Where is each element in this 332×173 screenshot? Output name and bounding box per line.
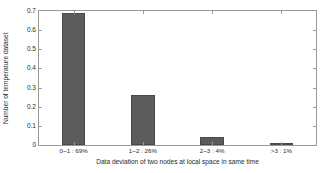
y-axis-tick-mark — [313, 107, 316, 108]
x-axis-tick-label: >3 : 1% — [271, 148, 292, 154]
x-axis-tick-mark — [143, 142, 144, 145]
y-axis-tick-mark — [39, 126, 42, 127]
y-axis-tick-label: 0.6 — [27, 27, 36, 34]
y-axis-tick-mark — [313, 68, 316, 69]
y-axis-tick-mark — [39, 68, 42, 69]
x-axis-title: Data deviation of two nodes at local spa… — [38, 159, 317, 166]
y-axis-tick-mark — [39, 49, 42, 50]
plot-area: 00.10.20.30.40.50.60.70~1 : 69%1~2 : 26%… — [38, 10, 317, 146]
x-axis-tick-label: 2~3 : 4% — [200, 148, 225, 154]
x-axis-tick-mark — [212, 11, 213, 14]
bar — [62, 13, 86, 145]
bar — [131, 95, 155, 145]
y-axis-tick-mark — [313, 126, 316, 127]
x-axis-tick-mark — [281, 142, 282, 145]
y-axis-tick-label: 0.4 — [27, 65, 36, 72]
y-axis-tick-label: 0.5 — [27, 46, 36, 53]
y-axis-tick-label: 0 — [32, 142, 36, 149]
x-axis-tick-mark — [212, 142, 213, 145]
x-axis-tick-label: 1~2 : 26% — [129, 148, 157, 154]
y-axis-title: Number of temperature dataset — [0, 10, 12, 146]
y-axis-tick-mark — [39, 88, 42, 89]
x-axis-tick-mark — [143, 11, 144, 14]
x-axis-tick-mark — [281, 11, 282, 14]
y-axis-tick-label: 0.7 — [27, 8, 36, 15]
y-axis-tick-label: 0.1 — [27, 123, 36, 130]
y-axis-tick-mark — [313, 30, 316, 31]
y-axis-tick-mark — [39, 30, 42, 31]
y-axis-title-text: Number of temperature dataset — [3, 32, 10, 124]
y-axis-tick-mark — [313, 88, 316, 89]
x-axis-tick-mark — [74, 11, 75, 14]
y-axis-tick-label: 0.3 — [27, 84, 36, 91]
y-axis-tick-mark — [313, 49, 316, 50]
x-axis-tick-label: 0~1 : 69% — [60, 148, 88, 154]
y-axis-tick-mark — [39, 107, 42, 108]
x-axis-tick-mark — [74, 142, 75, 145]
bar-chart-figure: 00.10.20.30.40.50.60.70~1 : 69%1~2 : 26%… — [0, 0, 332, 173]
y-axis-tick-label: 0.2 — [27, 103, 36, 110]
